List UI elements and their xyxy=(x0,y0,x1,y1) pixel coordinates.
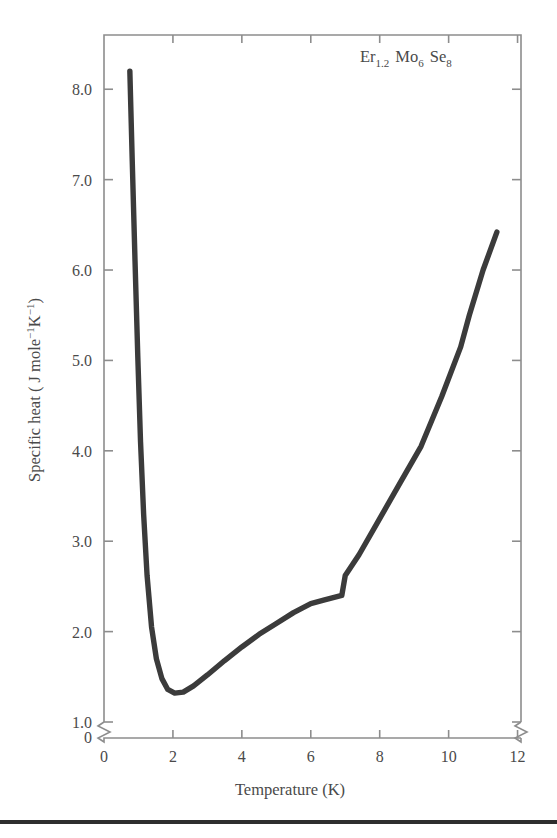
figure-container: 024681012 01.02.03.04.05.06.07.08.0 Temp… xyxy=(0,0,557,838)
tick-label: 8 xyxy=(376,748,384,765)
annotation-sub-1: 1.2 xyxy=(376,57,390,69)
y-axis-title-mid: K xyxy=(25,315,44,327)
tick-label: 0 xyxy=(84,729,92,746)
y-axis-ticks xyxy=(104,89,113,722)
tick-label: 4 xyxy=(238,748,246,765)
y-axis-title-sup2: −1 xyxy=(24,304,36,316)
svg-text:Specific heat ( J mole−1K−1): Specific heat ( J mole−1K−1) xyxy=(24,298,44,482)
x-axis-tick-labels: 024681012 xyxy=(100,748,526,765)
tick-label: 4.0 xyxy=(72,443,92,460)
annotation-sub-2: 6 xyxy=(418,57,424,69)
y-axis-title-sup1: −1 xyxy=(24,327,36,339)
specific-heat-chart: 024681012 01.02.03.04.05.06.07.08.0 Temp… xyxy=(0,0,557,820)
annotation-element-3: Se xyxy=(430,47,447,66)
annotation-sub-3: 8 xyxy=(446,57,452,69)
tick-label: 5.0 xyxy=(72,352,92,369)
tick-label: 6.0 xyxy=(72,262,92,279)
compound-annotation: Er1.2Mo6Se8 xyxy=(360,47,452,69)
x-axis-ticks xyxy=(173,730,518,738)
tick-label: 2.0 xyxy=(72,624,92,641)
tick-label: 7.0 xyxy=(72,172,92,189)
tick-label: 6 xyxy=(307,748,315,765)
tick-label: 1.0 xyxy=(72,714,92,731)
tick-label: 0 xyxy=(100,748,108,765)
annotation-element-1: Er xyxy=(360,47,376,66)
data-series-group xyxy=(130,71,497,693)
y-axis-title-end: ) xyxy=(25,298,44,304)
tick-label: 10 xyxy=(441,748,457,765)
plot-frame xyxy=(98,35,527,742)
y-axis-ticks-right xyxy=(512,89,521,722)
y-axis-title: Specific heat ( J mole−1K−1) xyxy=(24,298,44,482)
tick-label: 3.0 xyxy=(72,533,92,550)
x-axis-ticks-top xyxy=(173,35,518,43)
bottom-divider-rule xyxy=(0,820,557,824)
y-axis-title-main: Specific heat ( J mole xyxy=(25,339,44,482)
tick-label: 8.0 xyxy=(72,81,92,98)
y-axis-tick-labels: 01.02.03.04.05.06.07.08.0 xyxy=(72,81,92,746)
x-axis-title: Temperature (K) xyxy=(235,780,345,799)
specific-heat-curve xyxy=(130,71,497,693)
annotation-element-2: Mo xyxy=(395,47,418,66)
tick-label: 12 xyxy=(510,748,526,765)
tick-label: 2 xyxy=(169,748,177,765)
